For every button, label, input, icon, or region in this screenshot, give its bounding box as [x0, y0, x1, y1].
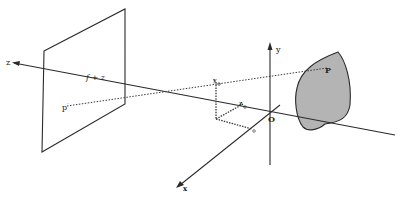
x-o-marker — [253, 130, 256, 133]
x-axis — [180, 105, 280, 185]
projection-ray — [67, 68, 327, 106]
coordinate-box — [216, 82, 252, 129]
focal-distance-label: f + z — [85, 73, 106, 82]
image-point-label: p′ — [62, 102, 69, 112]
z-axis-arrow-icon — [12, 61, 20, 66]
y-axis-arrow-icon — [268, 42, 273, 50]
image-plane — [42, 9, 125, 152]
x-axis-label: x — [183, 184, 188, 193]
y-o-label: y — [212, 76, 217, 84]
z-o-label: z — [239, 99, 243, 106]
origin-label: O — [268, 114, 275, 124]
projection-diagram: z f + z y O x P p′ y z — [0, 0, 404, 199]
world-point-label: P — [325, 65, 331, 75]
z-axis-label: z — [6, 58, 10, 67]
y-axis-label: y — [275, 45, 281, 54]
